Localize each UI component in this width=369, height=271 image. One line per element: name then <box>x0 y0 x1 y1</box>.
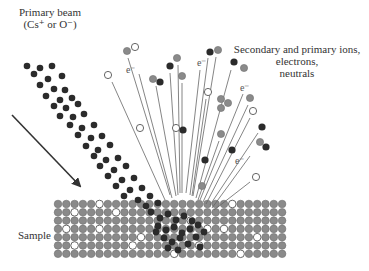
sample-atom <box>154 242 162 250</box>
sample-atom <box>71 217 79 225</box>
emitted-secondary-ion <box>178 72 185 79</box>
primary-ion <box>99 133 106 140</box>
electron-label: e⁻ <box>240 82 249 93</box>
sample-atom <box>195 200 203 208</box>
sample-atom <box>146 233 154 241</box>
emitted-secondary-ion <box>214 46 221 53</box>
sample-atom <box>54 200 62 208</box>
sample-atom-vacancy <box>63 225 71 233</box>
primary-ion <box>75 132 82 139</box>
implanted-primary-ion <box>173 217 180 224</box>
sample-atom <box>54 217 62 225</box>
sample-atom <box>71 250 79 258</box>
sample-atom <box>87 217 95 225</box>
primary-beam-particles <box>24 63 162 210</box>
emitted-secondary-ion <box>217 130 224 137</box>
implanted-primary-ion <box>185 241 192 248</box>
primary-ion <box>70 114 77 121</box>
sample-atom <box>104 250 112 258</box>
sample-atom <box>137 209 145 217</box>
sample-atom <box>104 200 112 208</box>
primary-ion <box>57 97 64 104</box>
sample-atom <box>79 250 87 258</box>
sample-atom <box>137 250 145 258</box>
sample-atom <box>212 233 220 241</box>
implanted-primary-ion <box>189 218 196 225</box>
primary-ion <box>51 86 58 93</box>
primary-ion <box>91 122 98 129</box>
emission-trajectories <box>112 57 258 210</box>
sample-atom <box>87 250 95 258</box>
sample-atom <box>195 209 203 217</box>
sample-atom <box>245 250 253 258</box>
emitted-primary-ion <box>258 123 265 130</box>
emitted-neutral <box>131 43 138 50</box>
sample-atom <box>129 217 137 225</box>
primary-ion <box>111 167 118 174</box>
sample-atom <box>146 217 154 225</box>
primary-ion <box>143 203 150 210</box>
sample-atom <box>262 233 270 241</box>
primary-beam-species: (Cs⁺ or O⁻) <box>8 18 92 30</box>
sample-atom-vacancy <box>96 225 104 233</box>
emitted-secondary-ion <box>217 95 224 102</box>
sample-atom <box>253 217 261 225</box>
emitted-neutral <box>172 124 179 131</box>
sample-atom <box>54 209 62 217</box>
sample-atom <box>212 250 220 258</box>
implanted-primary-ion <box>201 229 208 236</box>
sample-atom <box>204 209 212 217</box>
emitted-secondary-ion <box>149 75 156 82</box>
sample-atom <box>121 200 129 208</box>
sample-atom <box>162 200 170 208</box>
implanted-primary-ion <box>177 235 184 242</box>
primary-ion <box>119 177 126 184</box>
primary-ion <box>147 193 154 200</box>
sample-atom <box>229 209 237 217</box>
trajectory-line <box>193 57 216 196</box>
sample-atom <box>245 225 253 233</box>
sample-atom-vacancy <box>220 225 228 233</box>
sample-atom <box>229 242 237 250</box>
emitted-neutral <box>136 124 143 131</box>
sample-atom <box>278 209 286 217</box>
emitted-primary-ion <box>262 143 269 150</box>
primary-ion <box>59 73 66 80</box>
sample-atom <box>278 242 286 250</box>
sample-atom <box>270 250 278 258</box>
emitted-neutral <box>104 71 111 78</box>
sample-atom <box>262 217 270 225</box>
sample-atom <box>278 250 286 258</box>
sample-atom <box>79 233 87 241</box>
primary-ion <box>91 153 98 160</box>
sample-atom <box>96 209 104 217</box>
implanted-primary-ion <box>171 224 178 231</box>
sample-atom <box>187 250 195 258</box>
sample-atom <box>270 233 278 241</box>
sample-atom-vacancy <box>71 242 79 250</box>
sample-atom <box>229 217 237 225</box>
sample-atom-vacancy <box>71 209 79 217</box>
sample-atom <box>112 225 120 233</box>
emitted-primary-ion <box>166 62 173 69</box>
sample-atom <box>87 225 95 233</box>
emitted-primary-ion <box>201 156 208 163</box>
sample-atom <box>79 225 87 233</box>
trajectory-line <box>156 86 176 196</box>
emitted-neutral <box>204 88 211 95</box>
sample-atom <box>195 250 203 258</box>
sample-atom-vacancy <box>112 209 120 217</box>
primary-ion <box>155 200 162 207</box>
sample-atom <box>237 217 245 225</box>
primary-ion <box>103 157 110 164</box>
emitted-neutral <box>252 173 259 180</box>
primary-ion <box>37 65 44 72</box>
primary-ion <box>63 105 70 112</box>
electron-label: e⁻ <box>235 155 244 166</box>
sample-atom <box>146 225 154 233</box>
sample-atom <box>63 250 71 258</box>
emitted-neutral <box>249 107 256 114</box>
sample-atom <box>96 242 104 250</box>
sample-atom <box>245 209 253 217</box>
sample-lattice <box>54 200 286 257</box>
